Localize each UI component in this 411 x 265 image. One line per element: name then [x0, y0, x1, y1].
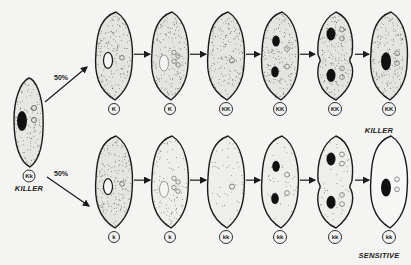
- macronucleus-remnant: [160, 181, 169, 197]
- branch-percent-top: 50%: [54, 74, 69, 81]
- parent-macronucleus: [17, 111, 27, 131]
- macronucleus: [381, 179, 391, 197]
- top-row-cell-3: KK: [208, 12, 245, 116]
- bottom-row-outcome: SENSITIVE: [359, 251, 401, 260]
- macronucleus: [327, 153, 336, 166]
- genotype-label: k: [168, 234, 172, 240]
- bottom-row-cell-4: kk: [262, 136, 299, 244]
- bottom-row: kkkkkkkkkk: [96, 136, 408, 244]
- genotype-label: KK: [331, 106, 340, 112]
- cell-body: [152, 12, 189, 100]
- cell-body: [318, 136, 353, 228]
- parent-genotype: Kk: [25, 173, 33, 179]
- cell-body: [96, 12, 133, 100]
- branch-arrow-bottom: [47, 177, 89, 206]
- cell-body: [262, 136, 299, 228]
- macronucleus-anlage: [271, 66, 279, 77]
- cell-body: [96, 136, 133, 228]
- top-row-cell-4: KK: [262, 12, 299, 116]
- top-row-cell-6: KK: [371, 12, 408, 116]
- genotype-label: KK: [385, 106, 394, 112]
- cell-body: [208, 136, 245, 228]
- bottom-row-cell-6: kk: [371, 136, 408, 244]
- genotype-label: kk: [277, 234, 284, 240]
- bottom-row-cell-5: kk: [318, 136, 353, 244]
- bottom-row-cell-1: k: [96, 136, 133, 243]
- branch-percent-bottom: 50%: [54, 170, 69, 177]
- genotype-label: kk: [332, 234, 339, 240]
- macronucleus-remnant: [104, 52, 113, 68]
- top-row: KKKKKKKKKK: [96, 12, 408, 116]
- macronucleus: [327, 28, 336, 41]
- genotype-label: kk: [223, 234, 230, 240]
- macronucleus-anlage: [271, 193, 279, 204]
- genotype-label: kk: [386, 234, 393, 240]
- genotype-label: K: [168, 106, 173, 112]
- branch-arrow-top: [45, 67, 87, 102]
- genotype-label: KK: [222, 106, 231, 112]
- bottom-row-cell-2: k: [152, 136, 189, 243]
- macronucleus-remnant: [104, 179, 113, 195]
- killer-inheritance-diagram: Kk KILLER 50% 50% KKKKKKKKKKkkkkkkkkkk K…: [0, 0, 411, 265]
- bottom-row-cell-3: kk: [208, 136, 245, 244]
- top-row-cell-1: K: [96, 12, 133, 115]
- top-row-cell-5: KK: [318, 12, 353, 116]
- parent-cell: Kk KILLER: [13, 77, 45, 193]
- macronucleus: [327, 69, 336, 82]
- genotype-label: K: [112, 106, 117, 112]
- cell-body: [208, 12, 245, 100]
- parent-phenotype: KILLER: [15, 184, 44, 193]
- top-row-outcome: KILLER: [365, 126, 394, 135]
- top-row-cell-2: K: [152, 12, 189, 115]
- macronucleus-anlage: [272, 36, 280, 47]
- macronucleus-remnant: [160, 55, 169, 71]
- genotype-label: k: [112, 234, 116, 240]
- cell-body: [262, 12, 299, 100]
- genotype-label: KK: [276, 106, 285, 112]
- macronucleus-anlage: [272, 161, 280, 172]
- macronucleus: [381, 52, 391, 70]
- cell-body: [152, 136, 189, 228]
- macronucleus: [327, 196, 336, 209]
